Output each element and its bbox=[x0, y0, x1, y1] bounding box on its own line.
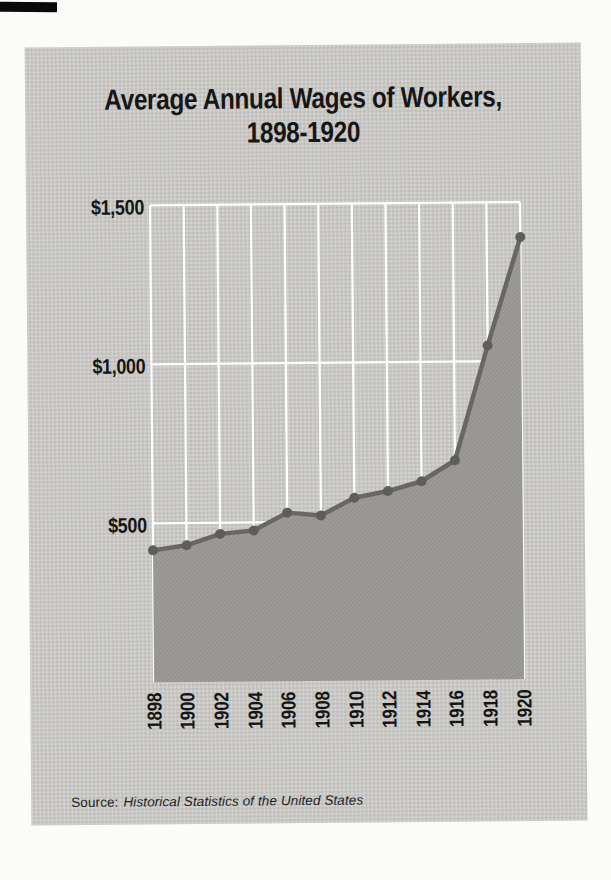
series-layer bbox=[145, 232, 529, 682]
data-point-1898 bbox=[148, 545, 158, 555]
x-tick-label-1914: 1914 bbox=[415, 683, 431, 734]
x-tick-label-1900: 1900 bbox=[180, 685, 196, 736]
x-tick-label-1902: 1902 bbox=[213, 685, 229, 736]
y-axis-labels: $500$1,000$1,500 bbox=[25, 43, 581, 48]
y-tick-label-1500: $1,500 bbox=[76, 197, 144, 218]
wage-area-fill bbox=[150, 237, 524, 682]
data-point-1906 bbox=[282, 508, 292, 518]
x-tick-label-1908: 1908 bbox=[314, 684, 330, 735]
data-point-1912 bbox=[383, 486, 393, 496]
x-tick-label-1904: 1904 bbox=[247, 685, 263, 736]
data-point-1916 bbox=[450, 455, 460, 465]
data-point-1900 bbox=[181, 540, 191, 550]
source-note: Source:Historical Statistics of the Unit… bbox=[71, 793, 363, 811]
y-tick-label-1000: $1,000 bbox=[77, 356, 145, 377]
data-point-1908 bbox=[316, 510, 326, 520]
chart-panel: Average Annual Wages of Workers, 1898-19… bbox=[25, 43, 588, 826]
x-tick-label-1910: 1910 bbox=[348, 684, 364, 735]
chart-title-line1: Average Annual Wages of Workers, bbox=[69, 79, 536, 117]
x-tick-label-1916: 1916 bbox=[449, 683, 465, 734]
horizontal-gridline bbox=[151, 361, 521, 364]
plot-area bbox=[150, 202, 524, 682]
vertical-gridline bbox=[150, 205, 154, 682]
wage-area-chart bbox=[150, 202, 524, 682]
source-prefix: Source: bbox=[71, 795, 118, 810]
data-point-1914 bbox=[416, 476, 426, 486]
chart-title: Average Annual Wages of Workers, 1898-19… bbox=[69, 79, 537, 151]
data-point-1910 bbox=[349, 493, 359, 503]
horizontal-gridline bbox=[150, 202, 520, 205]
data-point-1904 bbox=[248, 525, 258, 535]
x-tick-label-1918: 1918 bbox=[482, 683, 498, 734]
data-point-1920 bbox=[515, 232, 525, 242]
source-citation: Historical Statistics of the United Stat… bbox=[123, 793, 363, 810]
x-tick-label-1898: 1898 bbox=[146, 686, 162, 737]
x-tick-label-1912: 1912 bbox=[381, 684, 397, 735]
y-tick-label-500: $500 bbox=[79, 515, 147, 536]
scan-artifact-corner bbox=[0, 2, 57, 12]
x-tick-label-1906: 1906 bbox=[280, 685, 296, 736]
x-axis-labels: 1898190019021904190619081910191219141916… bbox=[25, 43, 581, 48]
x-tick-label-1920: 1920 bbox=[516, 683, 532, 734]
chart-title-line2: 1898-1920 bbox=[70, 113, 537, 151]
data-point-1902 bbox=[215, 529, 225, 539]
data-point-1918 bbox=[482, 340, 492, 350]
